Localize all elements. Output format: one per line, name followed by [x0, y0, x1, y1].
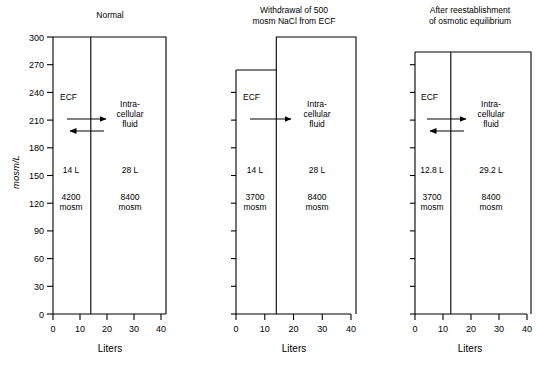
panel-equilibrium-title-line1: After reestablishment	[430, 5, 511, 15]
panel1-ecf-label: ECF	[60, 92, 77, 102]
y-tick-120: 120	[29, 199, 44, 209]
panel1-x-tick-40: 40	[156, 324, 166, 334]
panel1-icf-osmoles: 8400	[121, 192, 140, 202]
panel1-ecf-osmoles: 4200	[62, 192, 81, 202]
panel3-x-tick-0: 0	[412, 324, 417, 334]
panel-equilibrium: After reestablishment of osmotic equilib…	[410, 5, 532, 354]
panel3-x-tick-40: 40	[522, 324, 532, 334]
y-tick-0: 0	[39, 310, 44, 320]
panel1-ecf-volume: 14 L	[63, 165, 80, 175]
y-tick-240: 240	[29, 88, 44, 98]
panel2-x-axis-title: Liters	[282, 343, 306, 354]
panel3-icf-osmoles-unit: mosm	[479, 202, 502, 212]
panel3-x-tick-20: 20	[466, 324, 476, 334]
panel1-compartment-outline	[53, 37, 166, 314]
panel3-x-tick-30: 30	[494, 324, 504, 334]
panel1-icf-volume: 28 L	[122, 165, 139, 175]
panel2-ecf-osmoles-unit: mosm	[243, 202, 266, 212]
panel1-icf-label-line1: Intra-	[120, 99, 140, 109]
panel3-icf-volume: 29.2 L	[479, 165, 503, 175]
panel3-x-tick-10: 10	[438, 324, 448, 334]
panel1-x-axis-title: Liters	[98, 343, 122, 354]
y-tick-270: 270	[29, 60, 44, 70]
panel1-icf-label-line3: fluid	[122, 119, 138, 129]
panel1-x-tick-20: 20	[102, 324, 112, 334]
panel2-ecf-volume: 14 L	[247, 165, 264, 175]
panel2-icf-osmoles: 8400	[308, 192, 327, 202]
panel1-icf-label-line2: cellular	[117, 109, 144, 119]
y-tick-30: 30	[34, 282, 44, 292]
panel3-ecf-osmoles: 3700	[423, 192, 442, 202]
panel3-x-ticks	[415, 314, 527, 320]
panel1-x-tick-10: 10	[75, 324, 85, 334]
y-tick-210: 210	[29, 116, 44, 126]
panel1-icf-osmoles-unit: mosm	[118, 202, 141, 212]
panel2-icf-label-line3: fluid	[309, 119, 325, 129]
panel2-icf-volume: 28 L	[309, 165, 326, 175]
panel3-icf-label-line1: Intra-	[481, 99, 501, 109]
panel1-x-ticks	[53, 314, 161, 320]
y-tick-150: 150	[29, 171, 44, 181]
panel2-ecf-label: ECF	[243, 92, 260, 102]
panel2-icf-osmoles-unit: mosm	[305, 202, 328, 212]
y-tick-180: 180	[29, 143, 44, 153]
panel1-x-tick-0: 0	[50, 324, 55, 334]
panel1-x-tick-30: 30	[129, 324, 139, 334]
panel3-y-ticks	[410, 65, 415, 314]
panel-withdrawal-title-line1: Withdrawal of 500	[260, 5, 328, 15]
panel2-x-tick-0: 0	[233, 324, 238, 334]
panel-withdrawal: Withdrawal of 500 mosm NaCl from ECF 0 1…	[231, 5, 356, 354]
panel3-icf-label-line2: cellular	[478, 109, 505, 119]
panel-normal: Normal 300 270 240 210 180 150 120 90 60…	[10, 10, 166, 354]
panel-normal-title: Normal	[96, 10, 124, 20]
panel3-ecf-osmoles-unit: mosm	[420, 202, 443, 212]
panel3-ecf-volume: 12.8 L	[420, 165, 444, 175]
panel2-icf-label-line1: Intra-	[307, 99, 327, 109]
panel3-icf-label-line3: fluid	[483, 119, 499, 129]
panel2-icf-label-line2: cellular	[304, 109, 331, 119]
panel3-ecf-label: ECF	[421, 92, 438, 102]
y-tick-60: 60	[34, 254, 44, 264]
chart-svg: Normal 300 270 240 210 180 150 120 90 60…	[0, 0, 540, 365]
panel2-x-tick-20: 20	[288, 324, 298, 334]
panel2-x-tick-30: 30	[317, 324, 327, 334]
panel3-icf-osmoles: 8400	[482, 192, 501, 202]
panel-equilibrium-title-line2: of osmotic equilibrium	[429, 16, 511, 26]
panel2-y-ticks	[231, 92, 236, 314]
panel2-compartment-outline	[236, 37, 356, 314]
panel2-x-tick-40: 40	[346, 324, 356, 334]
panel2-x-tick-10: 10	[260, 324, 270, 334]
panel-withdrawal-title-line2: mosm NaCl from ECF	[252, 16, 335, 26]
osmotic-fluid-shift-figure: Normal 300 270 240 210 180 150 120 90 60…	[0, 0, 540, 365]
y-tick-300: 300	[29, 33, 44, 43]
y-axis-title: mosm/L	[10, 155, 21, 189]
panel2-x-ticks	[236, 314, 351, 320]
panel1-y-ticks	[47, 37, 53, 314]
panel1-ecf-osmoles-unit: mosm	[59, 202, 82, 212]
panel3-x-axis-title: Liters	[458, 343, 482, 354]
y-tick-90: 90	[34, 226, 44, 236]
panel2-ecf-osmoles: 3700	[246, 192, 265, 202]
